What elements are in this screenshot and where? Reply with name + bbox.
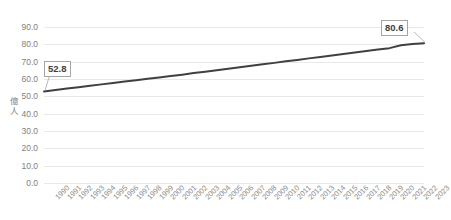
start-value-label: 52.8	[44, 61, 71, 77]
x-axis-tick-labels: 1990199119921993199419951996199719981999…	[44, 184, 424, 220]
end-callout-leader	[414, 32, 425, 42]
series-line	[44, 43, 424, 91]
end-value-label: 80.6	[381, 20, 408, 36]
